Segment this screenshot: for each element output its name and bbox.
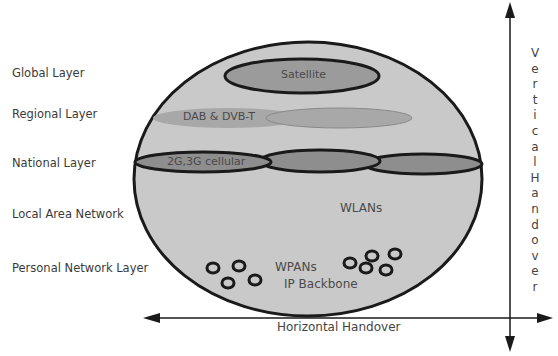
ip-backbone-label: IP Backbone bbox=[284, 277, 358, 291]
layer-label-personal: Personal Network Layer bbox=[12, 261, 148, 275]
layer-label-regional: Regional Layer bbox=[12, 107, 97, 121]
satellite-label: Satellite bbox=[281, 68, 326, 81]
wlan-label: WLANs bbox=[340, 201, 382, 215]
layer-label-local-area: Local Area Network bbox=[12, 207, 124, 221]
wpan-label: WPANs bbox=[275, 260, 317, 274]
vertical-handover-arrow bbox=[505, 2, 515, 352]
cellular-label: 2G,3G cellular bbox=[167, 155, 245, 168]
layer-label-global: Global Layer bbox=[12, 66, 84, 80]
horizontal-handover-label: Horizontal Handover bbox=[277, 320, 400, 334]
vertical-handover-label: V e r t i c a l H a n d o v e r bbox=[528, 46, 542, 296]
cellular-ellipse-middle bbox=[260, 150, 380, 172]
layer-label-national: National Layer bbox=[12, 156, 96, 170]
network-layers-diagram bbox=[0, 0, 558, 356]
broadcast-ellipse-right bbox=[266, 108, 412, 128]
broadcast-label: DAB & DVB-T bbox=[183, 110, 255, 123]
cellular-ellipse-right bbox=[364, 154, 482, 174]
